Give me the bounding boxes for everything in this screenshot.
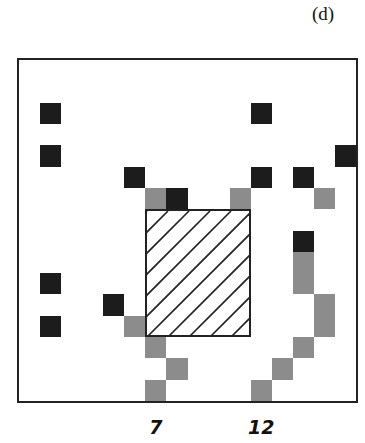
hatched-region xyxy=(145,209,250,337)
gray-cell xyxy=(293,252,314,273)
black-cell xyxy=(293,167,314,188)
gray-cell xyxy=(251,380,272,401)
black-cell xyxy=(335,145,356,166)
panel-label: (d) xyxy=(312,3,334,25)
gray-cell xyxy=(124,316,145,337)
black-cell xyxy=(40,145,61,166)
black-cell xyxy=(40,103,61,124)
black-cell xyxy=(40,316,61,337)
gray-cell xyxy=(293,273,314,294)
gray-cell xyxy=(314,188,335,209)
black-cell xyxy=(251,167,272,188)
gray-cell xyxy=(314,294,335,315)
gray-cell xyxy=(314,316,335,337)
grid-frame xyxy=(17,58,358,403)
black-cell xyxy=(40,273,61,294)
gray-cell xyxy=(230,188,251,209)
gray-cell xyxy=(293,337,314,358)
gray-cell xyxy=(145,380,166,401)
black-cell xyxy=(166,188,187,209)
gray-cell xyxy=(145,188,166,209)
x-axis-label: 7 xyxy=(149,416,162,438)
x-axis-label: 12 xyxy=(248,416,274,438)
black-cell xyxy=(103,294,124,315)
black-cell xyxy=(124,167,145,188)
black-cell xyxy=(251,103,272,124)
gray-cell xyxy=(272,358,293,379)
gray-cell xyxy=(166,358,187,379)
black-cell xyxy=(293,231,314,252)
gray-cell xyxy=(145,337,166,358)
